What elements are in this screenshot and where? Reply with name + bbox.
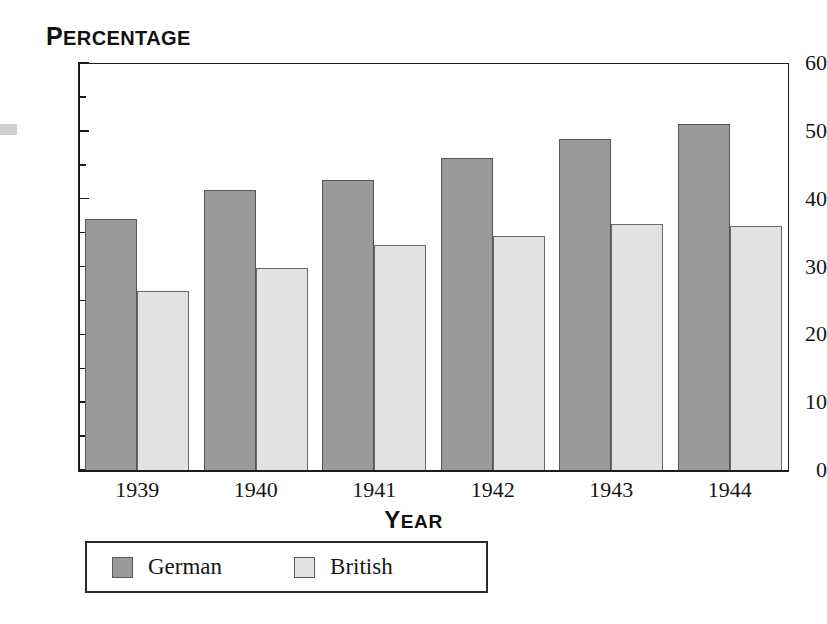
page-edge-artifact (0, 124, 17, 135)
legend-label-british: British (330, 554, 393, 580)
y-axis-title-rest: ERCENTAGE (63, 27, 191, 49)
bar-german-1941 (322, 180, 374, 470)
bar-german-1942 (441, 158, 493, 470)
x-tick-label: 1939 (115, 477, 159, 503)
bar-german-1943 (559, 139, 611, 470)
bars-layer (78, 63, 789, 470)
bar-british-1943 (611, 224, 663, 470)
x-axis-baseline (78, 470, 789, 472)
y-axis-title-initial: P (46, 22, 63, 50)
legend-entry-british: British (294, 554, 393, 580)
legend: German British (85, 541, 488, 593)
y-axis-title: PERCENTAGE (46, 22, 191, 51)
x-axis-title-rest: EAR (401, 511, 443, 532)
bar-german-1944 (678, 124, 730, 470)
x-axis-title: YEAR (0, 506, 827, 534)
x-tick-label: 1940 (234, 477, 278, 503)
bar-british-1942 (493, 236, 545, 470)
legend-swatch-british-icon (294, 557, 315, 578)
x-tick-label: 1943 (589, 477, 633, 503)
x-axis-title-initial: Y (384, 506, 401, 533)
bar-german-1939 (85, 219, 137, 470)
x-tick-label: 1941 (352, 477, 396, 503)
bar-german-1940 (204, 190, 256, 470)
bar-british-1944 (730, 226, 782, 470)
bar-british-1939 (137, 291, 189, 470)
x-tick-label: 1942 (471, 477, 515, 503)
bar-british-1941 (374, 245, 426, 470)
bar-british-1940 (256, 268, 308, 470)
legend-entry-german: German (112, 554, 222, 580)
legend-label-german: German (148, 554, 222, 580)
legend-swatch-german-icon (112, 557, 133, 578)
x-tick-label: 1944 (708, 477, 752, 503)
